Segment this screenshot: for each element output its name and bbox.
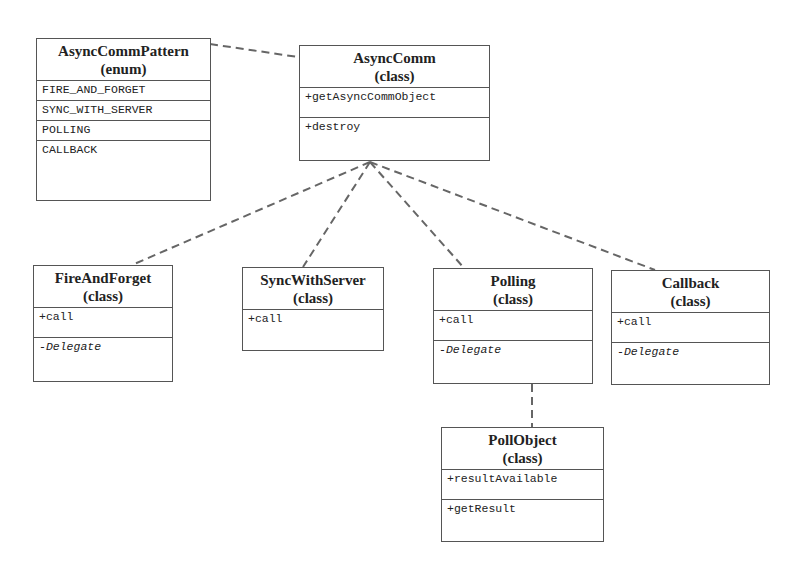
class-polling[interactable]: Polling (class) +call -Delegate	[433, 268, 593, 384]
class-stereotype: (enum)	[39, 60, 208, 78]
enum-member: FIRE_AND_FORGET	[37, 81, 210, 101]
class-stereotype: (class)	[245, 289, 381, 307]
class-header: Callback (class)	[612, 271, 769, 313]
connector-asynccomm-syncwithserver	[303, 162, 370, 267]
method: +call	[243, 310, 383, 340]
class-header: SyncWithServer (class)	[243, 268, 383, 310]
connector-asynccomm-polling	[370, 162, 464, 268]
class-name: SyncWithServer	[245, 271, 381, 289]
class-name: PollObject	[444, 431, 601, 449]
class-stereotype: (class)	[36, 287, 170, 305]
class-stereotype: (class)	[436, 290, 590, 308]
class-header: FireAndForget (class)	[34, 266, 172, 308]
class-fireandforget[interactable]: FireAndForget (class) +call -Delegate	[33, 265, 173, 382]
class-asynccommpattern[interactable]: AsyncCommPattern (enum) FIRE_AND_FORGET …	[36, 38, 211, 201]
enum-member: POLLING	[37, 121, 210, 141]
enum-member: SYNC_WITH_SERVER	[37, 101, 210, 121]
class-name: AsyncCommPattern	[39, 42, 208, 60]
class-name: Callback	[614, 274, 767, 292]
class-stereotype: (class)	[302, 67, 487, 85]
class-pollobject[interactable]: PollObject (class) +resultAvailable +get…	[441, 427, 604, 542]
class-header: AsyncComm (class)	[300, 46, 489, 88]
connector-pattern-asynccomm	[210, 44, 298, 57]
enum-member: CALLBACK	[37, 141, 210, 169]
method: +call	[34, 308, 172, 338]
method: +getResult	[442, 500, 603, 530]
attribute: -Delegate	[34, 338, 172, 368]
class-header: Polling (class)	[434, 269, 592, 311]
class-name: Polling	[436, 272, 590, 290]
class-asynccomm[interactable]: AsyncComm (class) +getAsyncCommObject +d…	[299, 45, 490, 161]
class-header: PollObject (class)	[442, 428, 603, 470]
method: +call	[434, 311, 592, 341]
class-name: FireAndForget	[36, 269, 170, 287]
method: +destroy	[300, 118, 489, 148]
method: +call	[612, 313, 769, 343]
class-stereotype: (class)	[444, 449, 601, 467]
class-syncwithserver[interactable]: SyncWithServer (class) +call	[242, 267, 384, 351]
class-name: AsyncComm	[302, 49, 487, 67]
method: +getAsyncCommObject	[300, 88, 489, 118]
attribute: -Delegate	[434, 341, 592, 371]
connector-asynccomm-callback	[370, 162, 655, 270]
class-header: AsyncCommPattern (enum)	[37, 39, 210, 81]
attribute: -Delegate	[612, 343, 769, 373]
class-callback[interactable]: Callback (class) +call -Delegate	[611, 270, 770, 385]
class-stereotype: (class)	[614, 292, 767, 310]
method: +resultAvailable	[442, 470, 603, 500]
